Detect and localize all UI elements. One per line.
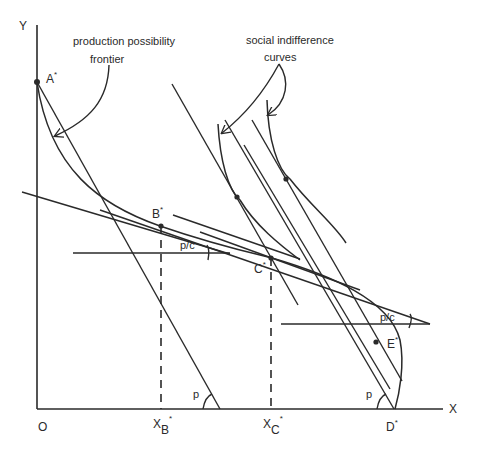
y-axis-label: Y (19, 19, 27, 33)
point-sic2-tangent (283, 176, 288, 181)
ppf-annotation-line1: production possibility (73, 35, 176, 47)
price-line-p-through-c (225, 120, 394, 409)
angle-label-pc-right: p/c (380, 311, 395, 323)
label-e: E* (387, 335, 398, 351)
tangent-line-c-lower (200, 232, 360, 290)
angle-label-p-right: p (366, 388, 372, 400)
label-b: B* (152, 205, 163, 221)
sic-annotation-line1: social indifference (246, 34, 334, 46)
x-axis-label: X (449, 402, 457, 416)
point-a (34, 79, 40, 85)
ppf-annotation-line2: frontier (90, 53, 125, 65)
social-indifference-curve-2 (267, 100, 346, 243)
label-a: A* (46, 70, 57, 86)
label-c: C* (254, 260, 266, 276)
point-e (373, 339, 378, 344)
trade-diagram: Y X O A* B* C* E* D* XB* XC* p p p (0, 0, 481, 459)
angle-arc-p-right (377, 394, 386, 409)
sic-pointer-arrow-left (222, 64, 279, 133)
sic-pointer-arrow-right (268, 64, 286, 115)
angle-arc-pc-right (409, 314, 411, 328)
social-indifference-curve-1 (218, 124, 300, 260)
angle-label-p-left: p (193, 388, 199, 400)
sic-annotation-line2: curves (264, 51, 297, 63)
label-xc: XC* (263, 414, 283, 437)
ppf-pointer-arrow (55, 65, 109, 136)
label-xb: XB* (153, 414, 172, 437)
origin-label: O (38, 420, 47, 434)
angle-arc-p-left (203, 394, 212, 409)
label-d: D* (386, 418, 398, 434)
point-c (268, 255, 273, 260)
point-sic1-tangent (234, 194, 239, 199)
point-b (158, 223, 163, 228)
angle-label-pc-left: p/c (180, 239, 195, 251)
production-possibility-frontier (37, 82, 402, 409)
